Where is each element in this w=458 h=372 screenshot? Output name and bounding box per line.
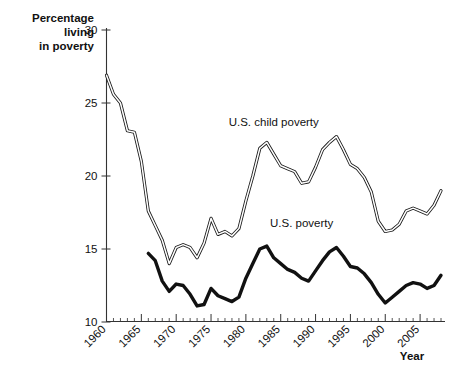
x-tick-label-1965: 1965 — [116, 323, 143, 350]
y-axis-title-line-3: in poverty — [39, 40, 95, 52]
series-line-us-poverty — [148, 246, 441, 306]
x-tick-label-1995: 1995 — [325, 323, 352, 350]
chart-figure: Percentage living in poverty 1015202530 … — [0, 0, 458, 372]
y-tick-label-25: 25 — [85, 97, 98, 109]
poverty-line-chart: Percentage living in poverty 1015202530 … — [0, 0, 458, 372]
series-line-child-poverty-inner — [107, 75, 442, 263]
x-tick-label-1990: 1990 — [290, 323, 317, 350]
series-line-child-poverty-outer — [107, 75, 442, 263]
x-tick-label-2005: 2005 — [395, 323, 422, 350]
y-axis-title-line-1: Percentage — [32, 12, 94, 24]
series-label-child-poverty: U.S. child poverty — [229, 116, 319, 128]
x-tick-label-1970: 1970 — [151, 323, 178, 350]
y-tick-label-15: 15 — [85, 243, 98, 255]
x-axis-ticks: 1960196519701975198019851990199520002005 — [81, 314, 441, 350]
x-tick-label-2000: 2000 — [360, 323, 387, 350]
x-tick-label-1980: 1980 — [221, 323, 248, 350]
y-tick-label-30: 30 — [85, 24, 98, 36]
x-axis-title: Year — [400, 350, 425, 362]
x-tick-label-1975: 1975 — [186, 323, 213, 350]
series-label-us-poverty: U.S. poverty — [270, 217, 334, 229]
y-tick-label-20: 20 — [85, 170, 98, 182]
x-tick-label-1985: 1985 — [256, 323, 283, 350]
